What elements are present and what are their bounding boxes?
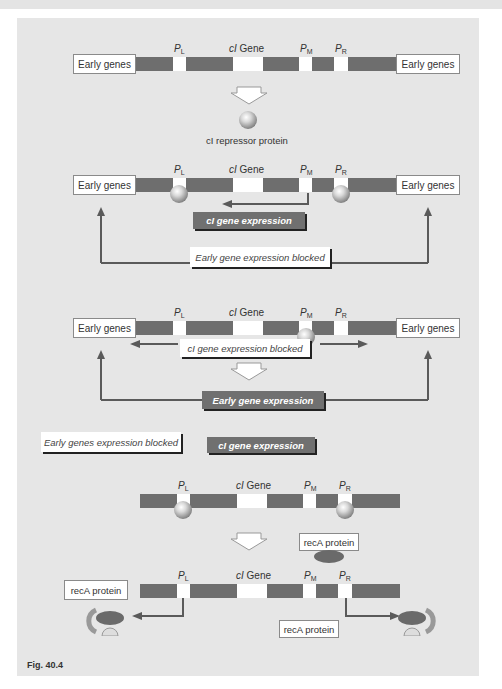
cleaved-repressor-right-icon — [392, 606, 438, 636]
cI-gene-segment — [233, 57, 263, 71]
dna-bar — [136, 57, 396, 71]
early-gene-blocked-label: Early gene expression blocked — [190, 247, 330, 267]
figure-caption: Fig. 40.4 — [27, 660, 63, 670]
cI-gene-segment — [237, 494, 267, 508]
label-pl: PL — [174, 307, 185, 319]
early-genes-right: Early genes — [396, 318, 460, 338]
label-pr: PR — [335, 307, 347, 319]
label-pm: PM — [300, 43, 313, 55]
label-pm: PM — [300, 307, 313, 319]
down-arrow-icon — [229, 86, 269, 106]
early-genes-left: Early genes — [73, 318, 136, 338]
promoter-pl — [173, 57, 186, 71]
promoter-pm — [303, 584, 316, 598]
promoter-pr — [334, 57, 348, 71]
cI-gene-segment — [237, 584, 267, 598]
label-cI-gene: cI Gene — [236, 480, 271, 491]
cI-gene-segment — [233, 178, 263, 192]
left-arrow-icon — [130, 338, 180, 350]
label-pr: PR — [339, 570, 351, 582]
early-genes-left: Early genes — [73, 175, 136, 195]
recA-protein-oval — [314, 550, 344, 563]
recA-protein-right-label: recA protein — [279, 620, 339, 638]
label-pm: PM — [304, 570, 317, 582]
early-genes-blocked-label: Early genes expression blocked — [41, 432, 181, 452]
right-arrow-icon — [320, 338, 370, 350]
label-pr: PR — [335, 43, 347, 55]
repressor-ball-pr — [336, 501, 354, 519]
top-band — [0, 0, 502, 9]
promoter-pm — [303, 494, 316, 508]
promoter-pm — [299, 57, 312, 71]
promoter-pl — [173, 321, 186, 335]
early-genes-right: Early genes — [396, 54, 460, 74]
early-genes-right: Early genes — [396, 175, 460, 195]
cI-gene-expression-label: cI gene expression — [207, 437, 315, 453]
label-cI-gene: cI Gene — [229, 307, 264, 318]
promoter-pr — [334, 321, 348, 335]
label-cI-gene: cI Gene — [236, 570, 271, 581]
repressor-ball-pl — [170, 185, 188, 203]
cI-gene-segment — [233, 321, 263, 335]
repressor-ball-pr — [332, 185, 350, 203]
recA-protein-left-label: recA protein — [64, 580, 128, 600]
early-genes-left: Early genes — [73, 54, 136, 74]
dna-bar — [136, 321, 396, 335]
early-gene-expression-label: Early gene expression — [202, 391, 324, 409]
label-pl: PL — [174, 164, 185, 176]
label-pr: PR — [339, 480, 351, 492]
label-cI-gene: cI Gene — [229, 43, 264, 54]
label-pl: PL — [174, 43, 185, 55]
label-cI-gene: cI Gene — [229, 164, 264, 175]
down-arrow-icon — [229, 532, 269, 552]
label-pr: PR — [335, 164, 347, 176]
label-pl: PL — [178, 570, 189, 582]
label-pm: PM — [300, 164, 313, 176]
repressor-ball-pl — [174, 501, 192, 519]
pl-left-arrow-icon — [130, 596, 190, 622]
recA-protein-label: recA protein — [299, 533, 359, 551]
label-pl: PL — [178, 480, 189, 492]
cI-repressor-ball — [239, 111, 257, 129]
label-pm: PM — [304, 480, 317, 492]
cleaved-repressor-left-icon — [84, 606, 130, 636]
repressor-label: cI repressor protein — [206, 135, 288, 146]
promoter-pm — [299, 178, 312, 192]
